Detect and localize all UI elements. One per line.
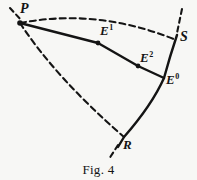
point-label-e0-base: E bbox=[166, 72, 175, 87]
point-label-e0-superscript: 0 bbox=[175, 72, 179, 81]
point-label-e2-base: E bbox=[140, 50, 149, 65]
point-label-r: R bbox=[123, 138, 132, 151]
point-label-e1: E1 bbox=[100, 24, 113, 37]
point-marker-p bbox=[17, 20, 23, 26]
dashed-tick-below-r bbox=[109, 145, 118, 159]
figure-caption: Fig. 4 bbox=[0, 162, 197, 178]
figure-4-diagram: P S E1 E2 E0 R Fig. 4 bbox=[0, 0, 197, 180]
point-label-e1-base: E bbox=[100, 23, 109, 38]
diagram-canvas bbox=[0, 0, 197, 180]
point-label-s: S bbox=[180, 30, 188, 44]
dashed-arc-p-to-r bbox=[20, 23, 124, 137]
point-label-e0: E0 bbox=[166, 73, 179, 86]
point-marker-e1 bbox=[96, 41, 101, 46]
point-label-p: P bbox=[20, 2, 29, 16]
point-label-e1-superscript: 1 bbox=[109, 23, 113, 32]
point-label-e2-superscript: 2 bbox=[149, 50, 153, 59]
point-label-e2: E2 bbox=[140, 51, 153, 64]
